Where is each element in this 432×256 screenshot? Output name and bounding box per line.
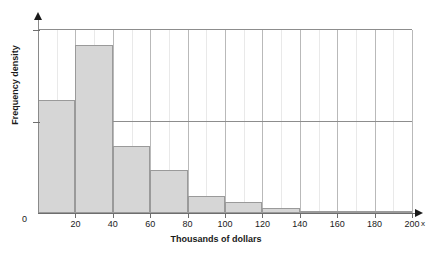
x-axis-tick (337, 213, 338, 218)
plot-area (38, 30, 412, 213)
x-axis-tick-label: 60 (135, 219, 165, 229)
histogram-bar (225, 202, 262, 213)
y-axis-arrow-icon (34, 12, 42, 20)
histogram-bar (188, 196, 225, 213)
x-axis-tick (150, 213, 151, 218)
gridline-minor-vertical (206, 30, 207, 213)
x-axis-tick-label: 100 (210, 219, 240, 229)
y-axis-line (38, 18, 39, 213)
gridline-major-vertical (225, 30, 226, 213)
gridline-major-vertical (337, 30, 338, 213)
x-axis-tick-label: 140 (285, 219, 315, 229)
x-axis-tick-label: 200 (397, 219, 427, 229)
histogram-figure: 0 x Thousands of dollars Frequency densi… (0, 0, 432, 256)
gridline-minor-vertical (281, 30, 282, 213)
x-axis-tick-label: 20 (60, 219, 90, 229)
x-axis-tick-label: 80 (173, 219, 203, 229)
x-axis-tick (262, 213, 263, 218)
y-axis-title: Frequency density (10, 25, 20, 145)
origin-label: 0 (22, 214, 27, 224)
gridline-top-rule (38, 29, 412, 30)
x-axis-tick-label: 180 (360, 219, 390, 229)
gridline-major-vertical (412, 30, 413, 213)
x-axis-tick-label: 160 (322, 219, 352, 229)
x-axis-tick (188, 213, 189, 218)
x-axis-tick (75, 213, 76, 218)
gridline-major-vertical (300, 30, 301, 213)
x-axis-tick (412, 213, 413, 218)
x-axis-tick (225, 213, 226, 218)
x-axis-tick (300, 213, 301, 218)
histogram-bar (150, 170, 187, 213)
gridline-major-vertical (188, 30, 189, 213)
histogram-bar (75, 45, 112, 213)
gridline-minor-vertical (244, 30, 245, 213)
x-axis-arrow-icon (415, 209, 423, 217)
gridline-minor-vertical (393, 30, 394, 213)
gridline-minor-vertical (319, 30, 320, 213)
y-axis-tick (33, 30, 40, 31)
gridline-major-vertical (262, 30, 263, 213)
x-axis-title: Thousands of dollars (0, 234, 432, 244)
gridline-major-vertical (375, 30, 376, 213)
x-axis-tick-label: 40 (98, 219, 128, 229)
histogram-bar (113, 146, 150, 213)
x-axis-tick (113, 213, 114, 218)
y-axis-tick (33, 122, 40, 123)
gridline-minor-vertical (356, 30, 357, 213)
x-axis-tick (375, 213, 376, 218)
x-axis-line (38, 213, 418, 214)
histogram-bar (38, 100, 75, 213)
x-axis-tick-label: 120 (247, 219, 277, 229)
